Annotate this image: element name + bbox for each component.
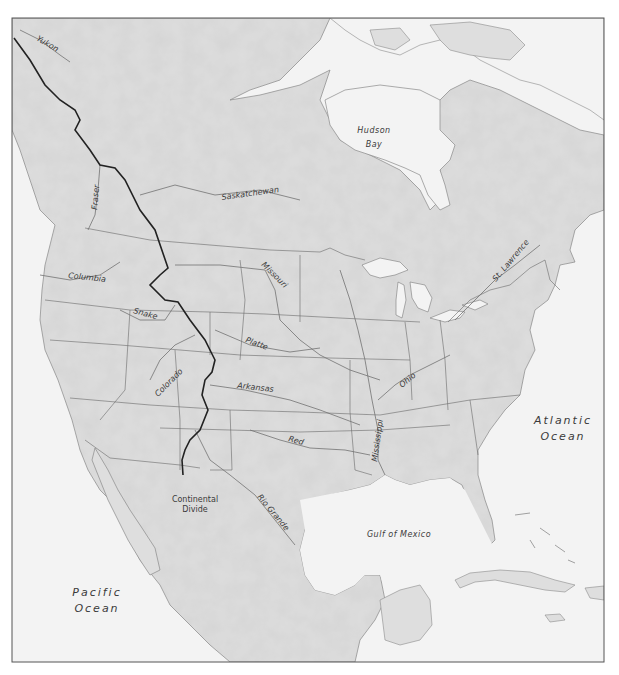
label-continental-divide-line1: Continental — [172, 495, 218, 504]
label-gulf-of-mexico: Gulf of Mexico — [367, 530, 431, 539]
label-atlantic-ocean-line1: Atlantic — [533, 414, 592, 427]
label-atlantic-ocean-line2: Ocean — [540, 430, 585, 443]
label-hudson-bay-line2: Bay — [366, 140, 383, 149]
label-continental-divide-line2: Divide — [182, 505, 207, 514]
label-pacific-ocean-line2: Ocean — [74, 602, 119, 615]
label-hudson-bay-line1: Hudson — [357, 126, 390, 135]
label-pacific-ocean-line1: Pacific — [72, 586, 121, 599]
north-america-map: Yukon Fraser Saskatchewan Columbia Snake… — [0, 0, 619, 675]
